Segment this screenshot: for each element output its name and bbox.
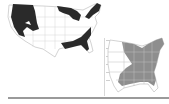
bottom-rule: [8, 97, 169, 99]
us-map-left: [3, 1, 109, 61]
us-map-right-eastern: [104, 36, 168, 98]
